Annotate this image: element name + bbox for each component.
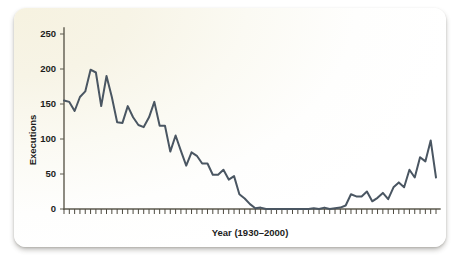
y-tick-label: 50 xyxy=(45,168,56,179)
x-axis-title: Year (1930–2000) xyxy=(212,227,289,238)
y-tick-label: 150 xyxy=(40,98,56,109)
executions-line-chart: 050100150200250 Executions Year (1930–20… xyxy=(14,8,446,247)
executions-data-line xyxy=(64,70,436,209)
y-tick-label: 100 xyxy=(40,133,56,144)
y-tick-label: 0 xyxy=(51,203,56,214)
x-axis-ticks xyxy=(64,209,436,214)
y-tick-label: 200 xyxy=(40,63,56,74)
y-axis-ticks: 050100150200250 xyxy=(40,28,64,214)
y-tick-label: 250 xyxy=(40,28,56,39)
y-axis-title: Executions xyxy=(27,115,38,166)
chart-card: 050100150200250 Executions Year (1930–20… xyxy=(14,8,446,247)
